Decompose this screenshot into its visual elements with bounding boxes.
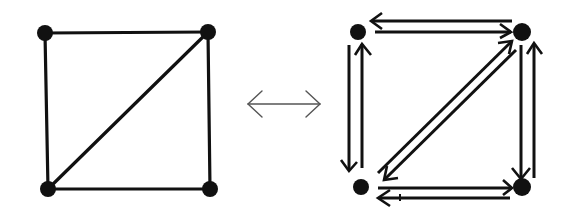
directed-graph — [341, 13, 542, 206]
graph-equivalence-diagram — [0, 0, 569, 216]
arc-d-to-c — [378, 190, 510, 206]
vertex-c — [40, 181, 56, 197]
arc-b-to-c — [384, 50, 516, 180]
vertex-d — [202, 181, 218, 197]
arc-c-to-d — [378, 180, 512, 195]
edge-a-b — [45, 32, 208, 33]
vertex-c — [353, 179, 369, 195]
edge-b-d — [208, 32, 210, 189]
undirected-graph — [45, 32, 210, 189]
arc-a-to-b — [375, 24, 511, 38]
arc-b-to-a — [371, 13, 512, 29]
arc-b-to-d — [512, 45, 530, 179]
edge-c-b — [48, 32, 208, 189]
vertex-a — [37, 25, 53, 41]
vertex-b — [513, 23, 531, 41]
arc-c-to-a — [355, 44, 371, 168]
vertex-b — [200, 24, 216, 40]
edge-a-c — [45, 33, 48, 189]
vertex-a — [350, 24, 366, 40]
arc-d-to-b — [527, 43, 542, 178]
vertex-d — [513, 178, 531, 196]
arc-a-to-c — [341, 45, 357, 171]
arc-c-to-b — [378, 41, 512, 173]
double-arrow-icon — [248, 91, 320, 117]
